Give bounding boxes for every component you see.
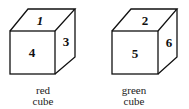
red-cube-front-number: 4 <box>29 45 36 60</box>
red-cube-caption: red cube <box>18 85 68 107</box>
green-cube-right-number: 6 <box>166 35 173 50</box>
red-cube-caption-line2: cube <box>18 96 68 107</box>
green-cube-top-number: 2 <box>142 13 149 28</box>
green-cube-front-number: 5 <box>132 46 139 61</box>
red-cube-right-number: 3 <box>63 34 70 49</box>
green-cube-caption-line2: cube <box>109 96 159 107</box>
green-cube-caption: green cube <box>109 85 159 107</box>
red-cube-top-number: 1 <box>37 13 44 28</box>
